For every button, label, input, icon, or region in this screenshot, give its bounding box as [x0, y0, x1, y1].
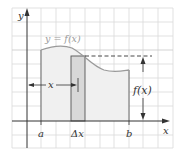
x-bracket-label: x — [48, 79, 54, 90]
tick-label-b: b — [126, 128, 132, 139]
tick-label-delta-x: Δx — [70, 128, 84, 139]
y-axis-arrow-icon — [25, 8, 30, 16]
x-axis-label: x — [163, 125, 169, 136]
curve-label: y = f(x) — [44, 33, 81, 44]
y-axis-label: y — [17, 10, 24, 21]
area-diagram: y x y = f(x) a Δx b x f(x) — [0, 0, 179, 156]
height-arrow-down-icon — [141, 113, 146, 120]
tick-label-a: a — [38, 128, 44, 139]
x-bracket-left-arrow-icon — [28, 83, 34, 87]
x-axis-arrow-icon — [162, 119, 170, 124]
height-label-fx: f(x) — [132, 84, 152, 97]
height-arrow-up-icon — [141, 57, 146, 64]
